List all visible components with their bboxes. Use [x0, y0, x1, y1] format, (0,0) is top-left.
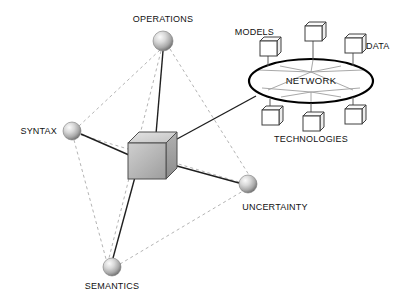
device-side [362, 105, 366, 124]
sphere-operations[interactable] [153, 31, 173, 51]
network-spoke [281, 92, 311, 97]
syntax-label: SYNTAX [20, 126, 57, 136]
device-side [320, 112, 324, 131]
dashed-edge-operations-uncertainty [170, 49, 249, 175]
network-device-node[interactable] [260, 37, 281, 56]
network-label: NETWORK [286, 75, 337, 86]
device-front [345, 38, 362, 53]
operations-label: OPERATIONS [133, 14, 193, 24]
sphere-uncertainty[interactable] [239, 175, 257, 193]
network-device-node[interactable] [262, 106, 283, 125]
network-spoke [311, 92, 341, 97]
device-front [260, 41, 277, 56]
semantics-label: SEMANTICS [85, 281, 139, 291]
device-front [262, 110, 279, 125]
dashed-edge-operations-syntax [79, 50, 160, 126]
device-front [303, 116, 320, 131]
solid-edge-cube-network [166, 96, 256, 145]
network-cloud[interactable]: NETWORK MODELS DATA TECHNOLOGIES [235, 22, 390, 144]
data-label: DATA [366, 41, 389, 51]
sphere-semantics[interactable] [103, 258, 121, 276]
sphere-syntax[interactable] [63, 122, 81, 140]
device-side [279, 106, 283, 125]
network-device-node[interactable] [305, 22, 326, 41]
cube-front-face [128, 143, 166, 179]
dashed-edge-syntax-semantics [74, 140, 106, 259]
models-label: MODELS [235, 27, 274, 37]
dashed-edge-semantics-uncertainty [120, 191, 243, 264]
center-cube[interactable] [128, 132, 177, 179]
network-device-node[interactable] [345, 105, 366, 124]
network-device-node[interactable] [303, 112, 324, 131]
network-spoke [311, 60, 313, 72]
diagram-canvas: NETWORK MODELS DATA TECHNOLOGIES OPERATI… [0, 0, 404, 303]
solid-edge-cube-syntax [81, 134, 129, 155]
device-front [345, 109, 362, 124]
technologies-label: TECHNOLOGIES [274, 134, 348, 144]
device-side [277, 37, 281, 56]
device-side [322, 22, 326, 41]
network-device-node[interactable] [345, 34, 366, 53]
network-spoke [262, 88, 311, 92]
uncertainty-label: UNCERTAINTY [242, 202, 307, 212]
network-diagram: NETWORK MODELS DATA TECHNOLOGIES OPERATI… [0, 0, 404, 303]
device-front [305, 26, 322, 41]
